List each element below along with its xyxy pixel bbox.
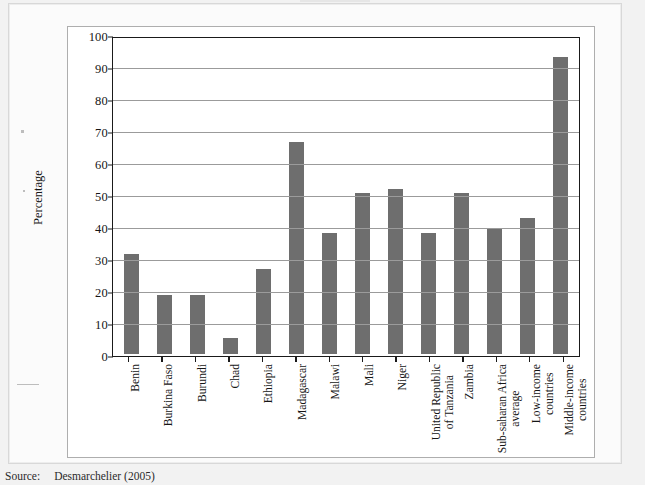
source-caption: Source:Desmarchelier (2005) [5, 470, 155, 482]
y-tick-label: 80 [95, 94, 108, 109]
plot-canvas [112, 37, 580, 357]
x-tick-label-line: Burkina Faso [162, 364, 175, 426]
x-label-slot: Mali [346, 362, 379, 457]
gridline [113, 260, 579, 261]
source-text: Desmarchelier (2005) [54, 470, 155, 482]
x-tick-label-line: Benin [129, 364, 142, 392]
figure-panel: Percentage 0102030405060708090100 BeninB… [8, 3, 622, 464]
y-tick-label: 40 [95, 222, 108, 237]
page-top-rule [300, 0, 370, 2]
y-tick-label: 90 [95, 62, 108, 77]
x-label-slot: Burundi [179, 362, 212, 457]
page-speck [23, 190, 25, 192]
gridline [113, 164, 579, 165]
bar[interactable] [355, 193, 370, 355]
x-label-slot: United Republicof Tanzania [413, 362, 446, 457]
x-tick-label: Madagascar [296, 364, 309, 420]
x-label-slot: Burkina Faso [145, 362, 178, 457]
bar[interactable] [223, 338, 238, 354]
y-tick-label: 50 [95, 190, 108, 205]
x-tick-label-line: Low-income [530, 364, 543, 423]
gridline [113, 292, 579, 293]
gridline [113, 68, 579, 69]
x-tick-label-line: Middle-income [563, 364, 576, 435]
x-tick-label: Malawi [329, 364, 342, 399]
x-tick-label: Mali [363, 364, 376, 386]
source-label: Source: [5, 470, 40, 482]
gridline [113, 228, 579, 229]
x-tick-label: Ethiopia [262, 364, 275, 403]
x-axis-labels: BeninBurkina FasoBurundiChadEthiopiaMada… [112, 362, 580, 457]
page-speck [17, 384, 39, 385]
y-axis-ticks: 0102030405060708090100 [64, 37, 108, 357]
x-label-slot: Low-incomecountries [513, 362, 546, 457]
y-tick-label: 100 [89, 30, 108, 45]
y-tick-label: 10 [95, 318, 108, 333]
x-label-slot: Zambia [446, 362, 479, 457]
x-tick-label-line: Malawi [329, 364, 342, 399]
bar[interactable] [520, 218, 535, 355]
gridline [113, 100, 579, 101]
x-tick-label: Zambia [463, 364, 476, 399]
x-label-slot: Malawi [313, 362, 346, 457]
x-tick-label-line: Madagascar [296, 364, 309, 420]
x-tick-label: Chad [229, 364, 242, 388]
x-tick-label-line: Niger [396, 364, 409, 390]
x-tick-label-line: Zambia [463, 364, 476, 399]
x-tick-label-line: Chad [229, 364, 242, 388]
bar[interactable] [421, 233, 436, 354]
y-tick-label: 70 [95, 126, 108, 141]
x-label-slot: Niger [379, 362, 412, 457]
x-tick-label-line: United Republic [430, 364, 443, 440]
x-label-slot: Middle-incomecountries [546, 362, 579, 457]
x-tick-label-line: Ethiopia [262, 364, 275, 403]
y-axis-title: Percentage [27, 37, 49, 357]
x-tick-label: Middle-incomecountries [563, 364, 589, 435]
figure-page: Percentage 0102030405060708090100 BeninB… [0, 0, 645, 485]
y-axis-title-label: Percentage [31, 170, 46, 225]
gridline [113, 196, 579, 197]
x-tick-label: Burundi [196, 364, 209, 402]
x-tick-label-line: Sub-saharan Africa [496, 364, 509, 453]
y-tick-label: 20 [95, 286, 108, 301]
y-tick-label: 60 [95, 158, 108, 173]
y-tick-label: 30 [95, 254, 108, 269]
bar[interactable] [388, 189, 403, 354]
x-tick-label-line: countries [576, 364, 589, 435]
x-label-slot: Benin [112, 362, 145, 457]
bar[interactable] [289, 142, 304, 354]
x-tick-label: Niger [396, 364, 409, 390]
bar[interactable] [256, 269, 271, 355]
page-speck [21, 130, 24, 133]
gridline [113, 132, 579, 133]
x-tick-label: Benin [129, 364, 142, 392]
bar[interactable] [454, 193, 469, 355]
x-label-slot: Madagascar [279, 362, 312, 457]
bar[interactable] [322, 233, 337, 354]
x-label-slot: Ethiopia [246, 362, 279, 457]
x-label-slot: Chad [212, 362, 245, 457]
x-tick-label-line: Burundi [196, 364, 209, 402]
plot-area [112, 37, 580, 357]
x-tick-label-line: Mali [363, 364, 376, 386]
bar[interactable] [124, 254, 139, 354]
x-tick-label: Burkina Faso [162, 364, 175, 426]
x-label-slot: Sub-saharan Africaaverage [480, 362, 513, 457]
gridline [113, 324, 579, 325]
